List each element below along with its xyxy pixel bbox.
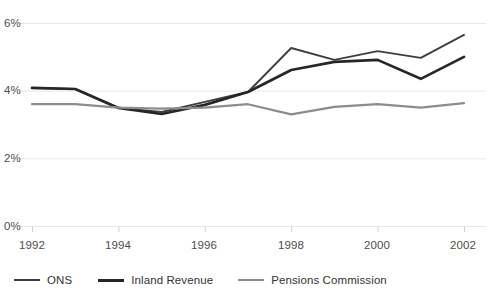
x-tick-label-2000: 2000 xyxy=(364,239,390,251)
series-line-ons xyxy=(32,35,464,112)
y-tick-label-4: 4% xyxy=(4,84,34,96)
legend-swatch-ons xyxy=(14,279,40,281)
x-tick-label-1992: 1992 xyxy=(19,239,45,251)
legend-swatch-pensions-commission xyxy=(238,279,264,281)
x-tick-label-2002: 2002 xyxy=(450,239,476,251)
legend-swatch-inland-revenue xyxy=(98,279,124,282)
series-line-pensions-commission xyxy=(32,103,464,114)
chart-legend: ONS Inland Revenue Pensions Commission xyxy=(0,268,489,292)
legend-label-pensions-commission: Pensions Commission xyxy=(271,274,387,286)
legend-item-pensions-commission[interactable]: Pensions Commission xyxy=(238,274,387,286)
legend-item-inland-revenue[interactable]: Inland Revenue xyxy=(98,274,213,286)
y-tick-label-6: 6% xyxy=(4,17,34,29)
y-tick-label-0: 0% xyxy=(4,220,34,232)
y-tick-label-2: 2% xyxy=(4,152,34,164)
x-tick-label-1998: 1998 xyxy=(278,239,304,251)
legend-label-ons: ONS xyxy=(47,274,72,286)
gridlines xyxy=(18,24,486,227)
line-chart: 6% 4% 2% 0% 1992 1994 1996 1998 2000 200… xyxy=(0,0,489,303)
plot-svg xyxy=(0,0,489,240)
x-axis-labels: 1992 1994 1996 1998 2000 2002 xyxy=(0,233,489,255)
x-tick-marks xyxy=(33,227,465,232)
plot-area: 6% 4% 2% 0% xyxy=(0,0,489,240)
x-tick-label-1994: 1994 xyxy=(105,239,131,251)
x-tick-label-1996: 1996 xyxy=(191,239,217,251)
legend-label-inland-revenue: Inland Revenue xyxy=(131,274,213,286)
series-lines xyxy=(32,35,464,115)
legend-item-ons[interactable]: ONS xyxy=(14,274,72,286)
